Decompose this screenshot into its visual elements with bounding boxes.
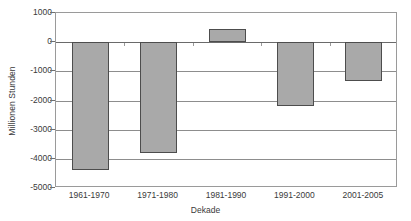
bar [345,42,382,81]
x-tick-label: 1991-2000 [274,190,315,200]
bar [209,29,246,42]
x-tick-label: 1971-1980 [137,190,178,200]
y-tick-mark [50,70,55,71]
x-tick-label: 1961-1970 [69,190,110,200]
y-tick-label: -4000 [6,153,52,163]
y-tick-mark [50,41,55,42]
y-tick-mark [50,158,55,159]
y-tick-label: -3000 [6,124,52,134]
y-tick-mark [50,12,55,13]
y-tick-mark [50,187,55,188]
category-tick [261,43,262,46]
category-tick [330,43,331,46]
x-tick-label: 2001-2005 [342,190,383,200]
chart-title [30,0,370,1]
bar-chart: Millionen Stunden 10000-1000-2000-3000-4… [0,0,411,221]
category-tick [193,43,194,46]
y-tick-label: -2000 [6,95,52,105]
x-tick-label: 1981-1990 [206,190,247,200]
y-tick-label: 0 [6,36,52,46]
bar [72,42,109,170]
y-tick-label: 1000 [6,7,52,17]
y-tick-mark [50,129,55,130]
y-tick-label: -1000 [6,65,52,75]
x-axis-title: Dekade [0,205,411,215]
y-tick-label: -5000 [6,182,52,192]
bar [140,42,177,153]
bar [277,42,314,106]
y-tick-mark [50,100,55,101]
plot-area [55,12,397,187]
category-tick [124,43,125,46]
